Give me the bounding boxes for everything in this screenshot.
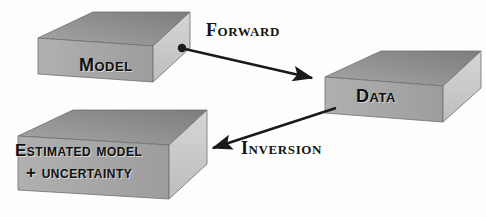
- arrow-forward-line: [185, 49, 312, 78]
- diagram-svg: [0, 0, 486, 217]
- block-data[interactable]: [325, 51, 481, 122]
- block-model-side-face: [38, 38, 153, 82]
- block-model[interactable]: [38, 12, 190, 82]
- diagram-canvas: Model Data Estimated model + uncertainty…: [0, 0, 486, 217]
- block-estimated-model-side-face: [18, 136, 169, 199]
- arrow-inversion-line: [213, 108, 336, 148]
- arrow-inversion[interactable]: [213, 108, 336, 148]
- block-estimated-model[interactable]: [18, 110, 207, 199]
- arrow-forward-source-dot: [178, 44, 186, 52]
- arrow-forward[interactable]: [178, 44, 312, 78]
